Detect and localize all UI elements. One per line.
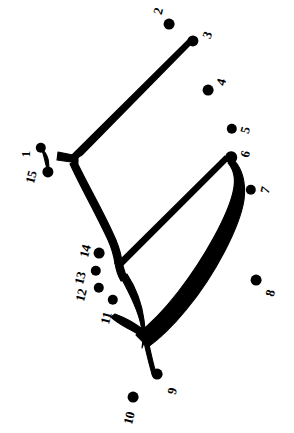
dot-label-1: 1: [19, 151, 32, 157]
dot-10[interactable]: [128, 392, 139, 403]
stroke-dot6-thick-sweep-down: [136, 160, 245, 347]
dot-9[interactable]: [152, 369, 163, 380]
artwork-strokes: [0, 0, 294, 433]
stroke-dot3-to-fork-junction: [72, 38, 193, 160]
dot-2[interactable]: [164, 19, 175, 30]
dot-14[interactable]: [94, 248, 105, 259]
dot-8[interactable]: [251, 275, 262, 286]
dot-4[interactable]: [203, 85, 214, 96]
dot-6[interactable]: [225, 151, 237, 163]
puzzle-canvas: 123456789101112131415: [0, 0, 294, 433]
